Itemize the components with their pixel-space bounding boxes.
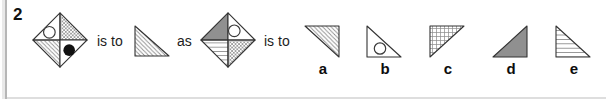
option-d-shape[interactable] bbox=[491, 24, 531, 60]
relation-text-2: as bbox=[177, 33, 192, 49]
answer-triangle-left bbox=[133, 23, 173, 59]
outlined-circle-mark bbox=[374, 43, 385, 54]
option-c-shape[interactable] bbox=[428, 24, 468, 60]
question-number: 2 bbox=[13, 5, 22, 25]
page-edge-line bbox=[5, 0, 7, 99]
option-a-shape[interactable] bbox=[303, 24, 343, 60]
option-b-shape[interactable] bbox=[365, 24, 405, 60]
bottom-rule-line bbox=[7, 97, 606, 99]
outlined-circle-mark bbox=[44, 26, 56, 38]
option-c-triangle bbox=[430, 26, 464, 57]
option-e-triangle bbox=[556, 26, 590, 57]
option-a-triangle bbox=[305, 26, 339, 57]
relation-text-1: is to bbox=[97, 33, 123, 49]
hatched-triangle-shape bbox=[135, 26, 169, 56]
diamond-right-quadrant-bottom-right bbox=[228, 40, 255, 67]
diamond-right-quadrant-top-left bbox=[201, 13, 228, 40]
option-d-label: d bbox=[491, 60, 531, 77]
option-e-label: e bbox=[554, 60, 594, 77]
analogy-diamond-right bbox=[199, 11, 257, 69]
option-d-triangle bbox=[493, 26, 527, 57]
outlined-circle-mark bbox=[228, 25, 240, 37]
option-e-shape[interactable] bbox=[554, 24, 594, 60]
relation-text-3: is to bbox=[264, 33, 290, 49]
option-b-label: b bbox=[365, 60, 405, 77]
analogy-diamond-left bbox=[31, 11, 89, 69]
option-a-label: a bbox=[303, 60, 343, 77]
diamond-right-quadrant-bottom-left bbox=[201, 40, 228, 67]
filled-black-dot-mark bbox=[63, 44, 75, 56]
option-c-label: c bbox=[428, 60, 468, 77]
diamond-left-quadrant-bottom-left bbox=[33, 40, 60, 67]
diamond-left-quadrant-top-right bbox=[60, 13, 87, 40]
puzzle-question-row: 2 is to as is to a bbox=[0, 0, 606, 99]
